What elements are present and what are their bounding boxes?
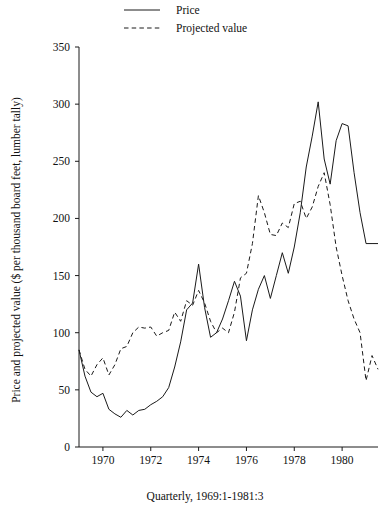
- chart-figure: Price Projected value 050100150200250300…: [0, 0, 386, 512]
- x-tick-label: 1978: [283, 454, 306, 466]
- y-tick-label: 350: [53, 41, 71, 53]
- y-tick-label: 150: [53, 270, 71, 282]
- series-line-price: [79, 102, 378, 417]
- y-axis-title: Price and projected value ($ per thousan…: [10, 97, 23, 403]
- x-tick-label: 1972: [139, 454, 162, 466]
- x-tick-label: 1976: [235, 454, 258, 466]
- legend-label-projected-value: Projected value: [176, 22, 247, 35]
- series-lines: [79, 102, 378, 417]
- y-tick-label: 250: [53, 155, 71, 167]
- x-axis-caption: Quarterly, 1969:1-1981:3: [147, 490, 264, 503]
- y-tick-label: 200: [53, 212, 71, 224]
- y-tick-label: 50: [59, 384, 71, 396]
- x-tick-label: 1974: [187, 454, 210, 466]
- x-axis: 197019721974197619781980: [79, 447, 378, 466]
- x-tick-label: 1970: [91, 454, 114, 466]
- legend: Price Projected value: [124, 4, 247, 35]
- series-line-projected-value: [79, 173, 378, 381]
- y-tick-label: 100: [53, 327, 71, 339]
- legend-label-price: Price: [176, 4, 200, 16]
- y-tick-label: 300: [53, 98, 71, 110]
- y-tick-label: 0: [64, 441, 70, 453]
- x-tick-label: 1980: [331, 454, 354, 466]
- y-axis: 050100150200250300350: [53, 41, 79, 453]
- line-chart: Price Projected value 050100150200250300…: [0, 0, 386, 512]
